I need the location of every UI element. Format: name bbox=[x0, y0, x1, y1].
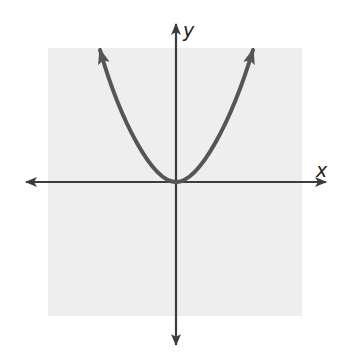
parabola-graph: y x bbox=[0, 0, 337, 352]
x-axis-label: x bbox=[315, 159, 328, 181]
y-axis-label: y bbox=[182, 19, 195, 41]
